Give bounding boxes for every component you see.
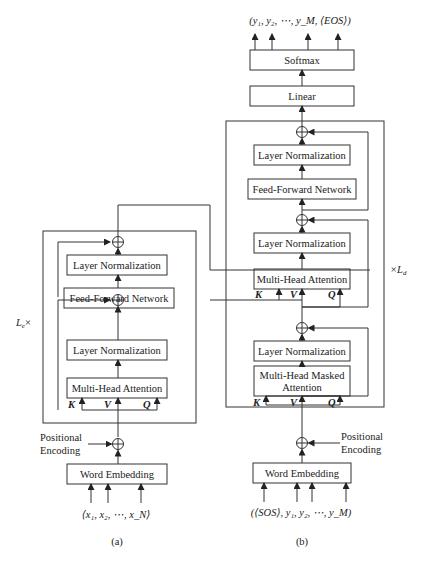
decoder-masked-mha-label-2: Attention — [282, 382, 322, 393]
encoder-layernorm-top-label: Layer Normalization — [73, 260, 162, 271]
decoder-cross-q-label: Q — [328, 289, 336, 300]
encoder-word-embedding-label: Word Embedding — [80, 469, 155, 480]
encoder-layernorm-bottom-label: Layer Normalization — [73, 345, 162, 356]
decoder-word-embedding-label: Word Embedding — [265, 468, 340, 479]
decoder-input-sequence: (⟨SOS⟩, y₁, y₂, ⋯, y_M) — [251, 507, 352, 519]
decoder-layernorm-3-label: Layer Normalization — [258, 150, 347, 161]
decoder-self-v-label: V — [290, 397, 298, 408]
decoder-cross-v-label: V — [290, 289, 298, 300]
encoder-k-label: K — [67, 399, 76, 410]
encoder-pe-label-1: Positional — [40, 432, 82, 443]
encoder-ffn-label: Feed-Forward Network — [70, 293, 170, 304]
decoder-pe-label-1: Positional — [341, 431, 383, 442]
decoder-self-k-label: K — [252, 397, 261, 408]
decoder-softmax-label: Softmax — [284, 55, 320, 66]
encoder-v-label: V — [104, 399, 112, 410]
transformer-diagram: Layer Normalization Feed-Forward Network… — [0, 0, 429, 563]
decoder-linear-label: Linear — [288, 91, 316, 102]
decoder-ffn-label: Feed-Forward Network — [253, 184, 353, 195]
decoder-masked-mha-label-1: Multi-Head Masked — [260, 370, 346, 381]
decoder-repeat-label: ×Ld — [390, 264, 407, 277]
decoder-mha-label: Multi-Head Attention — [257, 274, 348, 285]
decoder-caption: (b) — [296, 536, 309, 548]
encoder-pe-label-2: Encoding — [40, 445, 81, 456]
decoder-layernorm-1-label: Layer Normalization — [258, 346, 347, 357]
encoder-mha-label: Multi-Head Attention — [72, 383, 163, 394]
decoder-output-sequence: (y₁, y₂, ⋯, y_M, ⟨EOS⟩) — [249, 15, 351, 27]
decoder-self-q-label: Q — [328, 397, 336, 408]
encoder-q-label: Q — [143, 399, 151, 410]
encoder-repeat-label: Le× — [15, 317, 31, 330]
encoder-input-sequence: ⟨x₁, x₂, ⋯, x_N⟩ — [82, 509, 150, 520]
decoder-pe-label-2: Encoding — [341, 444, 382, 455]
decoder-outer-box — [226, 121, 384, 407]
decoder-layernorm-2-label: Layer Normalization — [258, 238, 347, 249]
decoder-cross-k-label: K — [254, 289, 263, 300]
encoder-caption: (a) — [111, 536, 123, 548]
